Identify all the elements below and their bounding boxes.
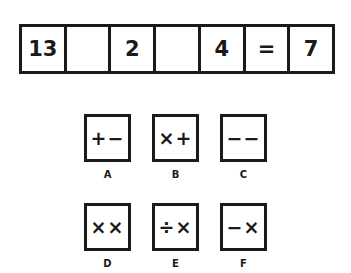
option-b-label: B — [152, 170, 199, 180]
equation-cell-equals: = — [246, 27, 291, 71]
option-c[interactable]: −− C — [220, 114, 267, 180]
option-a-label: A — [84, 170, 131, 180]
equation-cell-blank-operator-1[interactable] — [67, 27, 112, 71]
option-e-label: E — [152, 259, 199, 269]
equation-cell-blank-operator-2[interactable] — [156, 27, 201, 71]
option-b[interactable]: ×+ B — [152, 114, 199, 180]
option-e-box[interactable]: ÷× — [152, 203, 199, 251]
option-e[interactable]: ÷× E — [152, 203, 199, 269]
equation-row: 13 2 4 = 7 — [19, 24, 335, 74]
equation-cell-number: 4 — [201, 27, 246, 71]
option-f[interactable]: −× F — [220, 203, 267, 269]
option-a-box[interactable]: +− — [84, 114, 131, 162]
equation-cell-number: 13 — [22, 27, 67, 71]
option-d-label: D — [84, 259, 131, 269]
option-d[interactable]: ×× D — [84, 203, 131, 269]
option-c-box[interactable]: −− — [220, 114, 267, 162]
equation-cell-result: 7 — [290, 27, 332, 71]
option-f-label: F — [220, 259, 267, 269]
option-f-box[interactable]: −× — [220, 203, 267, 251]
option-b-box[interactable]: ×+ — [152, 114, 199, 162]
option-c-label: C — [220, 170, 267, 180]
option-d-box[interactable]: ×× — [84, 203, 131, 251]
option-a[interactable]: +− A — [84, 114, 131, 180]
equation-cell-number: 2 — [111, 27, 156, 71]
